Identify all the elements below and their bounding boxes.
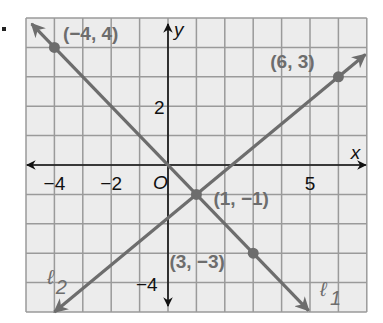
x-axis-label: x (350, 142, 362, 163)
point-label-3-neg3: (3, −3) (169, 251, 224, 272)
y-axis-label: y (172, 19, 185, 40)
point-label-6-3: (6, 3) (270, 51, 314, 72)
point-label-1-neg1: (1, −1) (213, 188, 268, 209)
point-marker (191, 189, 202, 200)
y-tick-label: −4 (136, 274, 158, 295)
x-tick-label: −4 (44, 173, 66, 194)
point-marker (248, 248, 259, 259)
y-tick-label: 2 (154, 97, 165, 118)
coordinate-graph: (−4, 4)(6, 3)(1, −1)(3, −3)−4−25O2−4yxℓ1… (0, 0, 383, 323)
list-bullet (2, 27, 6, 31)
point-label-neg4-4: (−4, 4) (63, 23, 118, 44)
point-marker (333, 71, 344, 82)
origin-label: O (153, 172, 168, 193)
x-tick-label: 5 (305, 173, 316, 194)
point-marker (49, 42, 60, 53)
line-label-l2-sub: 2 (55, 276, 67, 298)
graph-canvas: (−4, 4)(6, 3)(1, −1)(3, −3)−4−25O2−4yxℓ1… (0, 0, 383, 323)
x-tick-label: −2 (100, 173, 122, 194)
line-label-l1-sub: 1 (330, 287, 341, 309)
